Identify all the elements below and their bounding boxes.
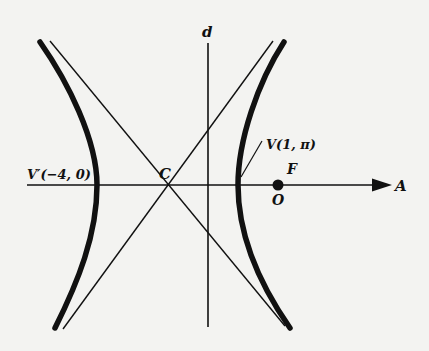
- vertex-right-label: V(1, π): [266, 137, 316, 152]
- pole-label: O: [272, 192, 285, 208]
- polar-axis-arrowhead-icon: [372, 179, 392, 192]
- hyperbola-diagram: d C V′(−4, 0) V(1, π) F O A: [0, 0, 429, 351]
- polar-axis-label: A: [393, 177, 407, 195]
- focus-pole-dot: [273, 180, 284, 191]
- focus-label: F: [286, 161, 298, 177]
- asymptote-line-1: [50, 41, 285, 326]
- vertex-left-label: V′(−4, 0): [27, 167, 91, 182]
- directrix-label: d: [202, 23, 213, 41]
- center-label: C: [159, 165, 171, 183]
